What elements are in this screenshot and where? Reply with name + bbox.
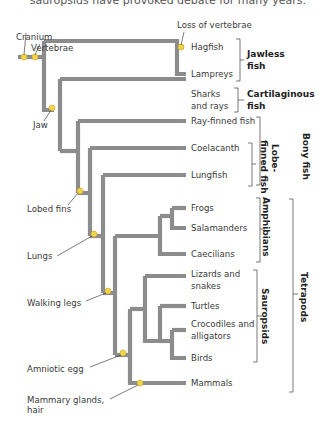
taxon-lizards-2: snakes — [191, 281, 221, 291]
phylogenetic-tree: Cranium Vertebrae Loss of vertebrae Jaw … — [0, 0, 330, 426]
trait-mammary-2: hair — [27, 405, 44, 415]
group-bony-fish: Bony fish — [301, 133, 311, 180]
group-tetrapods: Tetrapods — [299, 272, 309, 322]
trait-jaw: Jaw — [32, 120, 48, 130]
lobe-finned-bracket — [248, 143, 256, 186]
cartilaginous-bracket — [234, 88, 244, 112]
group-cartilaginous-2: fish — [247, 101, 265, 111]
taxon-sharks-1: Sharks — [191, 89, 221, 99]
trait-walking-legs: Walking legs — [27, 298, 82, 308]
taxon-hagfish: Hagfish — [191, 42, 224, 52]
taxon-lampreys: Lampreys — [191, 69, 234, 79]
taxon-salamanders: Salamanders — [191, 223, 248, 233]
group-amphibians: Amphibians — [261, 197, 271, 257]
taxon-ray-finned-fish: Ray-finned fish — [191, 116, 255, 126]
taxon-frogs: Frogs — [191, 203, 214, 213]
taxon-mammals: Mammals — [191, 378, 233, 388]
taxon-coelacanth: Coelacanth — [191, 143, 239, 153]
taxon-lizards-1: Lizards and — [191, 269, 240, 279]
trait-loss-of-vertebrae: Loss of vertebrae — [177, 20, 252, 30]
trait-vertebrae: Vertebrae — [31, 43, 73, 53]
group-sauropsids: Sauropsids — [260, 288, 270, 344]
jawless-bracket — [236, 39, 244, 81]
taxon-caecilians: Caecilians — [191, 249, 235, 259]
jaw-node — [49, 105, 55, 111]
taxon-turtles: Turtles — [190, 301, 220, 311]
group-cartilaginous-1: Cartilaginous — [247, 89, 315, 99]
taxon-crocodiles-2: alligators — [191, 331, 231, 341]
group-lobe-2: finned fish — [259, 140, 269, 194]
taxon-sharks-2: and rays — [191, 101, 229, 111]
taxon-lungfish: Lungfish — [191, 170, 227, 180]
group-jawless-2: fish — [247, 61, 265, 71]
group-jawless-1: Jawless — [246, 49, 285, 59]
trait-cranium: Cranium — [16, 32, 52, 42]
taxon-birds: Birds — [191, 353, 213, 363]
tetrapods-bracket — [289, 199, 298, 392]
trait-lungs: Lungs — [27, 251, 53, 261]
group-lobe-1: Lobe- — [270, 144, 280, 172]
trait-amniotic-egg: Amniotic egg — [27, 364, 84, 374]
taxon-crocodiles-1: Crocodiles and — [191, 319, 254, 329]
trait-mammary-1: Mammary glands, — [27, 395, 104, 405]
trait-lobed-fins: Lobed fins — [27, 204, 72, 214]
